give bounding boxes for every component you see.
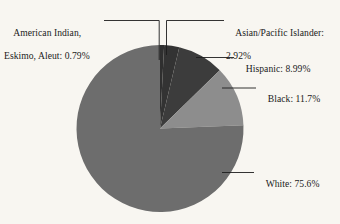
- slice-label-american-indian-line1: American Indian,: [13, 27, 81, 38]
- slice-label-black: Black: 11.7%: [258, 81, 320, 116]
- slice-label-white-text: White: 75.6%: [266, 178, 320, 189]
- slice-label-asian-line1: Asian/Pacific Islander:: [235, 27, 324, 38]
- slice-label-american-indian: American Indian, Eskimo, Aleut: 0.79%: [4, 15, 90, 85]
- slice-label-hispanic-text: Hispanic: 8.99%: [246, 63, 311, 74]
- slice-label-black-text: Black: 11.7%: [268, 93, 320, 104]
- pie-slice-group: [76, 45, 243, 212]
- slice-label-white: White: 75.6%: [256, 166, 320, 201]
- pie-chart: American Indian, Eskimo, Aleut: 0.79% As…: [0, 0, 340, 224]
- slice-label-american-indian-line2: Eskimo, Aleut: 0.79%: [4, 50, 90, 62]
